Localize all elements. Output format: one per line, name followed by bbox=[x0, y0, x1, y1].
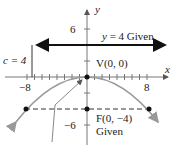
parabola-diagram bbox=[0, 0, 179, 147]
y-tick-neg6: −6 bbox=[64, 120, 76, 131]
latus-right-point bbox=[147, 107, 152, 112]
y-tick-6: 6 bbox=[70, 24, 76, 35]
focus-label: F(0, −4) bbox=[96, 113, 132, 124]
vertex-pointer-arrow bbox=[52, 80, 82, 142]
focus-point bbox=[85, 107, 90, 112]
directrix-label: y = 4 Given bbox=[102, 31, 154, 42]
x-tick-neg8: −8 bbox=[19, 82, 31, 93]
vertex-label: V(0, 0) bbox=[96, 58, 128, 69]
x-tick-8: 8 bbox=[144, 82, 150, 93]
vertex-point bbox=[85, 75, 90, 80]
c-label: c = 4 bbox=[3, 55, 26, 66]
y-axis-label: y bbox=[95, 4, 100, 15]
latus-left-point bbox=[24, 107, 29, 112]
focus-note: Given bbox=[96, 126, 123, 137]
x-axis-label: x bbox=[165, 64, 170, 75]
